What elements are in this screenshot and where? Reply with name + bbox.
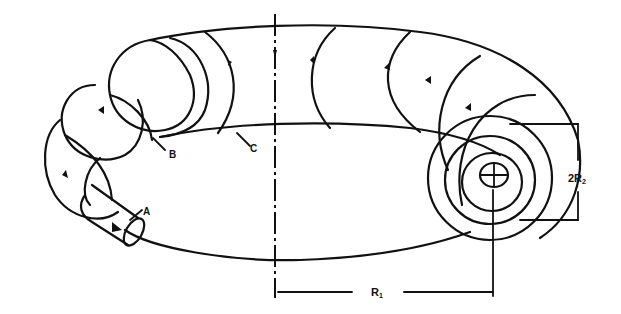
field-arrow-icon bbox=[425, 76, 431, 84]
field-arrow-icon bbox=[310, 56, 314, 64]
coil-left-1 bbox=[109, 40, 194, 131]
winding-back-3 bbox=[388, 32, 420, 132]
label-b: B bbox=[169, 149, 176, 160]
winding-back-4 bbox=[439, 56, 480, 170]
coil-left-1b bbox=[160, 38, 208, 137]
leader-b bbox=[153, 138, 165, 150]
toroid-drawing: 2R2 R1 A B C bbox=[0, 0, 621, 314]
field-arrow-icon bbox=[384, 62, 390, 70]
field-arrow-icon bbox=[273, 50, 277, 58]
field-arrow-icon bbox=[98, 106, 104, 114]
conductor-arrow-icon bbox=[112, 222, 122, 232]
label-minor-diameter: 2R2 bbox=[568, 172, 586, 185]
toroid-diagram: 2R2 R1 A B C bbox=[0, 0, 621, 314]
conductor-end bbox=[120, 215, 149, 249]
field-arrow-icon bbox=[465, 103, 471, 111]
leader-c bbox=[237, 133, 250, 146]
coil-left-2b bbox=[110, 95, 152, 140]
coil-left-inner bbox=[85, 158, 100, 205]
torus-outer-edge bbox=[150, 25, 580, 238]
winding-back-2 bbox=[312, 28, 335, 128]
cross-section-ring-3 bbox=[462, 153, 522, 211]
label-a: A bbox=[143, 206, 150, 217]
winding-back-1 bbox=[205, 32, 234, 133]
coil-left-2 bbox=[62, 85, 143, 159]
field-arrow-icon bbox=[62, 170, 68, 178]
torus-inner-front-edge bbox=[125, 230, 470, 260]
cross-section-outer bbox=[428, 116, 552, 240]
label-major-radius: R1 bbox=[371, 286, 383, 299]
label-c: C bbox=[250, 143, 257, 154]
